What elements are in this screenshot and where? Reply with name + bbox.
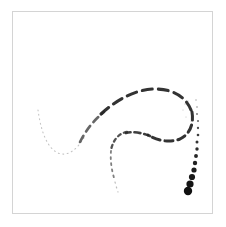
trail-dot: [194, 154, 198, 158]
path-hook-corner-dots: [111, 132, 127, 150]
trail-dot: [193, 161, 197, 165]
stroke-segment-right-loop: [148, 112, 193, 141]
trail-dot: [186, 180, 193, 187]
trail-dot: [189, 174, 195, 180]
trail-dot: [196, 106, 198, 108]
path-descending-tail-dots: [111, 151, 115, 181]
stroke-segment-hook-corner: [111, 132, 127, 150]
stroke-segment-descending-tail: [111, 151, 118, 192]
stroke-segment-rising: [80, 112, 104, 142]
path-right-loop-dashes: [148, 112, 193, 141]
trail-dot: [197, 127, 199, 129]
path-rising-dashes: [80, 112, 104, 142]
trail-dot: [195, 99, 196, 100]
trail-dot: [191, 167, 196, 172]
trail-dot: [196, 141, 199, 144]
trail-dot: [185, 116, 186, 117]
path-lower-horizontal-dashes: [126, 132, 150, 136]
path-faint-u-curve: [38, 110, 85, 154]
trail-dot: [197, 120, 199, 122]
stroke-segment-top-arc: [101, 89, 191, 114]
trail-dot-terminus: [184, 187, 192, 195]
screenshot-canvas: [0, 0, 226, 227]
trail-dot: [197, 134, 200, 137]
trail-dot: [196, 113, 198, 115]
trail-dot: [187, 100, 188, 101]
trail-dot: [184, 103, 185, 104]
stroke-segment-left-tail: [38, 110, 85, 154]
trail-dot: [190, 120, 191, 121]
trail-dot: [195, 147, 198, 150]
stroke-segment-lower-horizontal: [126, 132, 150, 136]
stroke-trail-canvas: [0, 0, 226, 227]
trail-dot: [182, 109, 183, 110]
path-descending-tail-fade: [115, 182, 118, 192]
path-top-arc-dashes: [101, 89, 191, 114]
